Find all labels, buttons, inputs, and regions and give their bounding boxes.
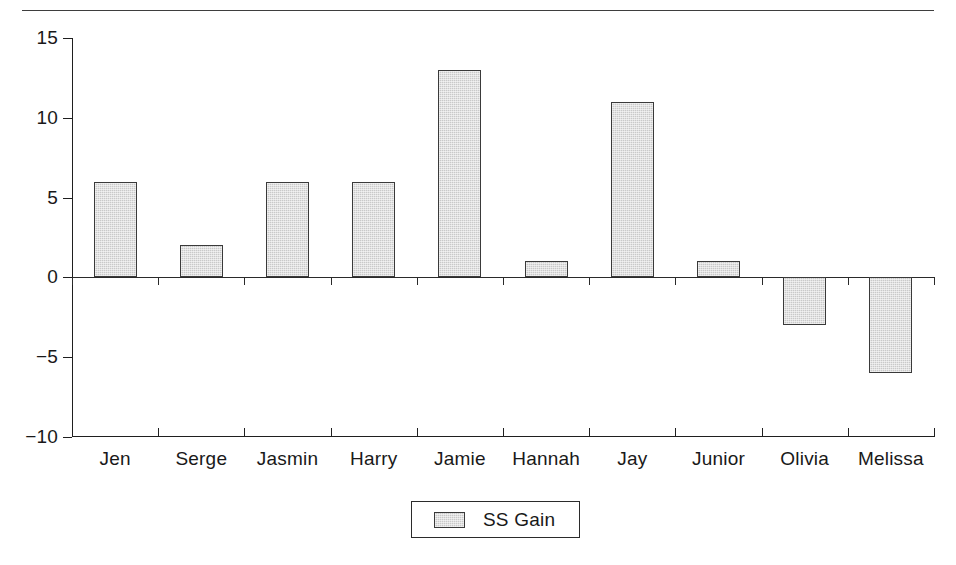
x-axis-labels: JenSergeJasminHarryJamieHannahJayJuniorO… — [72, 448, 934, 478]
y-tick-mark — [63, 198, 72, 199]
bar-junior — [697, 261, 740, 277]
zero-tick-mark — [417, 277, 418, 285]
x-tick-mark — [503, 428, 504, 437]
x-tick-mark — [848, 428, 849, 437]
x-tick-mark — [762, 428, 763, 437]
x-label-junior: Junior — [692, 448, 745, 470]
bar-olivia — [783, 277, 826, 325]
x-label-olivia: Olivia — [780, 448, 829, 470]
zero-tick-mark — [589, 277, 590, 285]
y-tick-label: −10 — [25, 426, 58, 448]
y-tick-mark — [63, 357, 72, 358]
bar-hannah — [525, 261, 568, 277]
x-tick-mark — [589, 428, 590, 437]
zero-tick-mark — [158, 277, 159, 285]
x-label-jen: Jen — [99, 448, 130, 470]
x-label-hannah: Hannah — [512, 448, 580, 470]
zero-tick-mark — [762, 277, 763, 285]
y-tick-label: 5 — [47, 187, 58, 209]
y-tick-label: 0 — [47, 266, 58, 288]
bar-jen — [94, 182, 137, 278]
zero-tick-mark — [848, 277, 849, 285]
y-axis-line — [72, 38, 73, 437]
legend-swatch-icon — [434, 512, 465, 528]
page-top-rule — [22, 10, 934, 11]
x-label-jasmin: Jasmin — [257, 448, 318, 470]
x-label-jay: Jay — [617, 448, 647, 470]
zero-tick-mark — [675, 277, 676, 285]
y-tick-label: 10 — [36, 107, 58, 129]
x-tick-mark — [675, 428, 676, 437]
y-tick-mark — [63, 277, 72, 278]
x-tick-mark — [934, 428, 935, 437]
bar-jamie — [438, 70, 481, 277]
zero-tick-mark — [331, 277, 332, 285]
y-tick-mark — [63, 38, 72, 39]
bar-melissa — [869, 277, 912, 373]
x-label-serge: Serge — [175, 448, 227, 470]
zero-tick-mark — [934, 277, 935, 285]
bar-serge — [180, 245, 223, 277]
bar-jasmin — [266, 182, 309, 278]
zero-tick-mark — [244, 277, 245, 285]
y-tick-label: 15 — [36, 27, 58, 49]
y-tick-mark — [63, 118, 72, 119]
plot-area: 151050−5−10 — [72, 38, 934, 437]
legend-label: SS Gain — [483, 509, 555, 531]
chart-legend: SS Gain — [411, 501, 580, 538]
x-tick-mark — [158, 428, 159, 437]
x-label-melissa: Melissa — [858, 448, 924, 470]
bar-harry — [352, 182, 395, 278]
bar-jay — [611, 102, 654, 278]
bar-chart-figure: 151050−5−10 JenSergeJasminHarryJamieHann… — [0, 0, 956, 565]
x-label-harry: Harry — [350, 448, 397, 470]
x-tick-mark — [72, 428, 73, 437]
x-tick-mark — [417, 428, 418, 437]
y-tick-mark — [63, 437, 72, 438]
zero-tick-mark — [503, 277, 504, 285]
x-tick-mark — [331, 428, 332, 437]
x-tick-mark — [244, 428, 245, 437]
x-label-jamie: Jamie — [434, 448, 486, 470]
y-tick-label: −5 — [36, 346, 58, 368]
zero-tick-mark — [72, 277, 73, 285]
